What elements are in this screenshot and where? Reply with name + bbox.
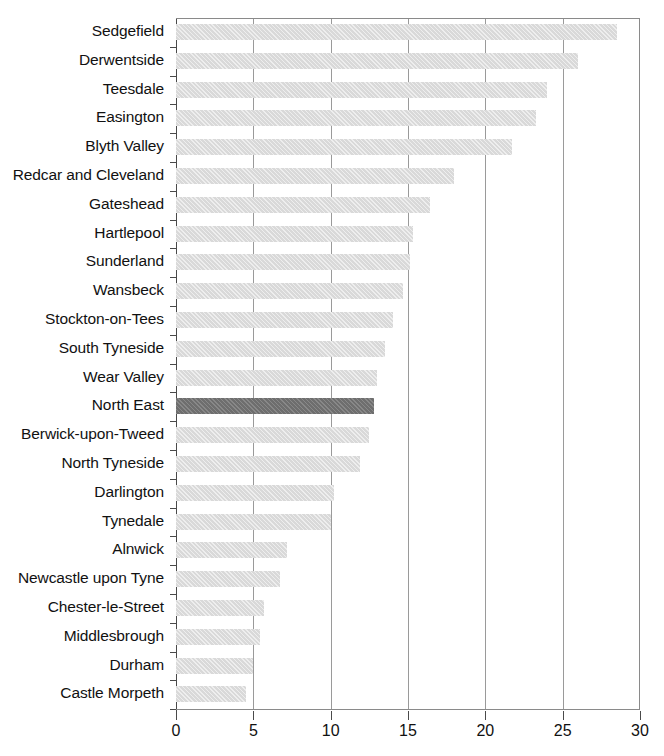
- category-label-stockton-on-tees: Stockton-on-Tees: [45, 306, 164, 332]
- category-label-sunderland: Sunderland: [86, 248, 164, 274]
- x-tick-label-5: 5: [233, 722, 273, 740]
- category-label-blyth-valley: Blyth Valley: [85, 133, 164, 159]
- bar-row: [176, 48, 640, 74]
- x-tick-5: [253, 711, 254, 720]
- category-label-newcastle-upon-tyne: Newcastle upon Tyne: [18, 565, 164, 591]
- category-label-wear-valley: Wear Valley: [83, 364, 164, 390]
- bar-alnwick: [176, 542, 287, 558]
- bar-row: [176, 624, 640, 650]
- bar-sedgefield: [176, 24, 617, 40]
- bar-row: [176, 336, 640, 362]
- x-tick-label-20: 20: [465, 722, 505, 740]
- category-label-sedgefield: Sedgefield: [92, 18, 164, 44]
- x-tick-label-25: 25: [543, 722, 583, 740]
- bar-row: [176, 134, 640, 160]
- bar-chart: SedgefieldDerwentsideTeesdaleEasingtonBl…: [0, 0, 664, 756]
- bar-south-tyneside: [176, 341, 385, 357]
- category-label-berwick-upon-tweed: Berwick-upon-Tweed: [21, 421, 164, 447]
- bar-row: [176, 163, 640, 189]
- x-tick-30: [640, 711, 641, 720]
- x-tick-label-10: 10: [311, 722, 351, 740]
- category-label-north-tyneside: North Tyneside: [61, 450, 164, 476]
- category-label-easington: Easington: [96, 104, 164, 130]
- bar-row: [176, 681, 640, 707]
- bar-stockton-on-tees: [176, 312, 393, 328]
- bar-row: [176, 566, 640, 592]
- x-tick-0: [176, 711, 177, 720]
- category-label-chester-le-street: Chester-le-Street: [48, 594, 164, 620]
- category-label-darlington: Darlington: [94, 479, 164, 505]
- x-tick-15: [408, 711, 409, 720]
- bar-tynedale: [176, 514, 331, 530]
- bar-row: [176, 105, 640, 131]
- category-label-middlesbrough: Middlesbrough: [64, 623, 164, 649]
- bar-row: [176, 365, 640, 391]
- category-label-derwentside: Derwentside: [79, 47, 164, 73]
- category-label-hartlepool: Hartlepool: [94, 220, 164, 246]
- bar-row: [176, 192, 640, 218]
- bar-row: [176, 451, 640, 477]
- bar-teesdale: [176, 82, 547, 98]
- bar-row: [176, 307, 640, 333]
- bar-newcastle-upon-tyne: [176, 571, 280, 587]
- bar-row: [176, 509, 640, 535]
- category-label-teesdale: Teesdale: [103, 76, 164, 102]
- bar-row: [176, 249, 640, 275]
- category-label-south-tyneside: South Tyneside: [59, 335, 164, 361]
- bar-berwick-upon-tweed: [176, 427, 369, 443]
- bar-durham: [176, 658, 253, 674]
- category-label-tynedale: Tynedale: [102, 508, 164, 534]
- bar-row: [176, 77, 640, 103]
- bar-north-tyneside: [176, 456, 360, 472]
- bar-gateshead: [176, 197, 430, 213]
- x-tick-label-0: 0: [156, 722, 196, 740]
- bar-row: [176, 480, 640, 506]
- category-label-north-east: North East: [92, 392, 164, 418]
- bar-hartlepool: [176, 226, 413, 242]
- bar-row: [176, 422, 640, 448]
- x-tick-label-30: 30: [620, 722, 660, 740]
- x-tick-25: [563, 711, 564, 720]
- bar-row: [176, 537, 640, 563]
- x-tick-10: [331, 711, 332, 720]
- bar-row: [176, 19, 640, 45]
- bar-darlington: [176, 485, 334, 501]
- bar-row: [176, 393, 640, 419]
- bar-north-east: [176, 398, 374, 414]
- x-tick-20: [485, 711, 486, 720]
- category-label-wansbeck: Wansbeck: [93, 277, 164, 303]
- category-label-alnwick: Alnwick: [112, 536, 164, 562]
- bar-derwentside: [176, 53, 578, 69]
- bar-wansbeck: [176, 283, 403, 299]
- bar-blyth-valley: [176, 139, 512, 155]
- bar-row: [176, 595, 640, 621]
- bar-castle-morpeth: [176, 686, 246, 702]
- x-tick-label-15: 15: [388, 722, 428, 740]
- bar-sunderland: [176, 254, 410, 270]
- category-label-durham: Durham: [109, 652, 164, 678]
- bar-row: [176, 653, 640, 679]
- bar-row: [176, 278, 640, 304]
- category-label-gateshead: Gateshead: [89, 191, 164, 217]
- plot-area: [176, 18, 640, 710]
- bar-middlesbrough: [176, 629, 260, 645]
- bar-easington: [176, 110, 536, 126]
- bar-chester-le-street: [176, 600, 264, 616]
- bar-row: [176, 221, 640, 247]
- bar-redcar-and-cleveland: [176, 168, 454, 184]
- category-label-castle-morpeth: Castle Morpeth: [60, 680, 164, 706]
- bar-wear-valley: [176, 370, 377, 386]
- category-label-redcar-and-cleveland: Redcar and Cleveland: [13, 162, 164, 188]
